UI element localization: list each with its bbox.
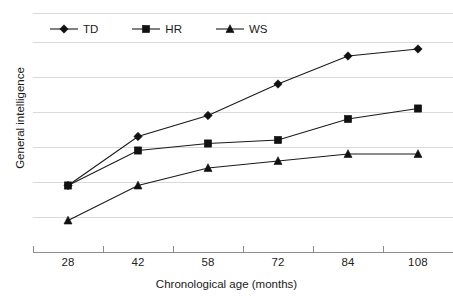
gridline xyxy=(33,147,453,148)
x-tick-label: 84 xyxy=(318,256,378,268)
triangle-marker-icon xyxy=(216,23,244,35)
gridline xyxy=(33,77,453,78)
legend-entry-td[interactable]: TD xyxy=(50,23,98,35)
diamond-marker-icon xyxy=(50,23,78,35)
gridline xyxy=(33,42,453,43)
x-axis-line xyxy=(33,252,453,253)
legend-entry-hr[interactable]: HR xyxy=(132,23,182,35)
gridline xyxy=(33,217,453,218)
x-tick-label: 72 xyxy=(248,256,308,268)
x-tick-label: 42 xyxy=(108,256,168,268)
legend-label: WS xyxy=(249,23,268,35)
x-axis-tick xyxy=(243,246,244,252)
x-axis-tick xyxy=(103,246,104,252)
square-marker-icon xyxy=(143,25,150,32)
chart-figure: 2842587284108 Chronological age (months)… xyxy=(0,0,453,308)
x-axis-tick xyxy=(313,246,314,252)
x-axis-title: Chronological age (months) xyxy=(0,278,453,290)
diamond-marker-icon xyxy=(60,25,68,33)
plot-area xyxy=(33,8,453,252)
chart-legend: TDHRWS xyxy=(50,23,268,35)
gridline xyxy=(33,13,453,14)
gridline xyxy=(33,182,453,183)
x-tick-label: 108 xyxy=(388,256,448,268)
legend-label: HR xyxy=(165,23,182,35)
y-axis-title: General intelligence xyxy=(14,28,26,208)
x-axis-tick xyxy=(173,246,174,252)
x-axis-tick xyxy=(33,246,34,252)
legend-entry-ws[interactable]: WS xyxy=(216,23,268,35)
legend-label: TD xyxy=(83,23,98,35)
x-axis-tick xyxy=(383,246,384,252)
square-marker-icon xyxy=(132,23,160,35)
x-tick-label: 28 xyxy=(38,256,98,268)
gridline xyxy=(33,112,453,113)
x-tick-label: 58 xyxy=(178,256,238,268)
